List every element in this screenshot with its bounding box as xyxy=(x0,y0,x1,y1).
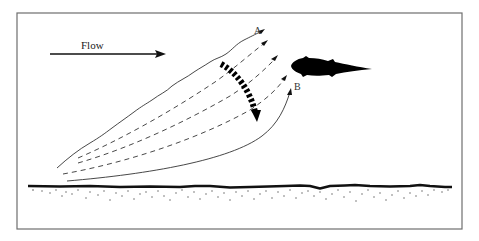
streamline-dashed-2 xyxy=(78,58,276,163)
ground-line xyxy=(28,185,452,189)
flow-label: Flow xyxy=(81,39,104,51)
streamline-upper-boundary xyxy=(57,31,262,168)
flow-diagram: Flow A B xyxy=(0,0,479,241)
point-b-label: B xyxy=(294,81,301,92)
fish-icon xyxy=(291,56,372,77)
streamline-set xyxy=(57,29,292,181)
sediment-dots xyxy=(32,189,448,202)
point-a-label: A xyxy=(254,25,262,36)
arrow-right-icon xyxy=(50,50,166,58)
streamline-dashed-1 xyxy=(78,42,266,158)
sediment-bed xyxy=(28,185,452,202)
